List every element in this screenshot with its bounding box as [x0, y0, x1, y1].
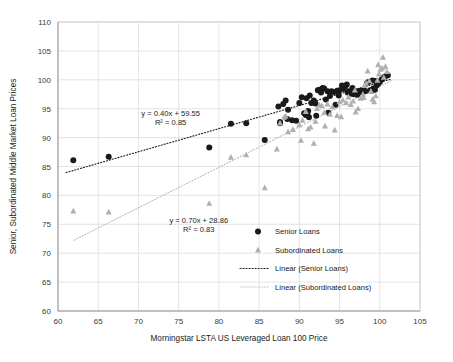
legend-label: Linear (Senior Loans) [275, 264, 348, 273]
data-point-triangle [106, 209, 112, 215]
x-tick-label: 80 [214, 317, 223, 326]
scatter-chart: 6065707580859095100105 60657075808590951… [0, 0, 453, 362]
data-point-circle [344, 81, 350, 87]
legend-item[interactable]: Senior Loans [255, 227, 320, 236]
data-point-circle [262, 137, 268, 143]
annotation-r2: R² = 0.83 [183, 225, 214, 234]
data-point-triangle [332, 127, 338, 133]
y-tick-label: 85 [42, 163, 51, 172]
annotation-r2: R² = 0.85 [155, 118, 186, 127]
x-tick-label: 65 [94, 317, 103, 326]
data-point-circle [313, 113, 319, 119]
x-tick-label: 105 [413, 317, 427, 326]
x-axis-title: Morningstar LSTA US Leveraged Loan 100 P… [151, 334, 328, 343]
legend-marker-triangle-icon [255, 247, 261, 253]
x-tick-label: 90 [295, 317, 304, 326]
data-point-triangle [274, 146, 280, 152]
legend-marker-circle-icon [255, 229, 261, 235]
chart-canvas: 6065707580859095100105 60657075808590951… [0, 0, 453, 362]
series-subordinated-loans [70, 54, 390, 215]
data-point-circle [285, 107, 291, 113]
x-tick-label: 60 [54, 317, 63, 326]
y-tick-label: 60 [42, 307, 51, 316]
data-point-circle [336, 92, 342, 98]
data-point-triangle [355, 105, 361, 111]
data-point-triangle [298, 137, 304, 143]
data-point-triangle [206, 200, 212, 206]
legend-label: Subordinated Loans [275, 246, 343, 255]
y-tick-label: 95 [42, 105, 51, 114]
data-point-triangle [228, 154, 234, 160]
x-tick-label: 85 [255, 317, 264, 326]
data-point-circle [293, 118, 299, 124]
data-point-circle [106, 154, 112, 160]
y-axis-tick-labels: 6065707580859095100105110 [38, 18, 52, 316]
y-tick-label: 80 [42, 191, 51, 200]
x-tick-label: 75 [174, 317, 183, 326]
legend-label: Senior Loans [275, 227, 320, 236]
data-point-triangle [262, 185, 268, 191]
data-point-triangle [312, 118, 318, 124]
data-point-triangle [365, 68, 371, 74]
y-tick-label: 105 [38, 47, 52, 56]
annotation-equation: y = 0.70x + 28.86 [169, 216, 228, 225]
y-tick-label: 65 [42, 278, 51, 287]
data-point-triangle [375, 61, 381, 67]
legend-item[interactable]: Linear (Senior Loans) [240, 264, 348, 273]
data-point-circle [296, 100, 302, 106]
x-tick-label: 70 [134, 317, 143, 326]
y-tick-label: 110 [38, 18, 51, 27]
data-point-circle [206, 144, 212, 150]
y-axis-title: Senior, Subordinated Middle Market Loan … [9, 79, 18, 255]
data-point-circle [306, 114, 312, 120]
x-tick-label: 100 [373, 317, 387, 326]
data-point-triangle [311, 140, 317, 146]
data-point-triangle [380, 54, 386, 60]
x-axis-tick-labels: 6065707580859095100105 [54, 317, 428, 326]
annotation-equation: y = 0.40x + 59.55 [141, 109, 200, 118]
y-tick-label: 70 [42, 249, 51, 258]
data-point-triangle [70, 208, 76, 214]
data-point-triangle [384, 68, 390, 74]
legend-item[interactable]: Linear (Subordinated Loans) [240, 283, 372, 292]
y-tick-label: 75 [42, 220, 51, 229]
data-points [70, 54, 391, 215]
data-point-circle [70, 157, 76, 163]
equation-annotations: y = 0.40x + 59.55R² = 0.85y = 0.70x + 28… [141, 109, 228, 234]
legend-label: Linear (Subordinated Loans) [275, 283, 372, 292]
data-point-circle [243, 120, 249, 126]
y-tick-label: 90 [42, 134, 51, 143]
gridlines [58, 22, 420, 311]
data-point-triangle [322, 123, 328, 129]
data-point-circle [283, 98, 289, 104]
data-point-circle [228, 121, 234, 127]
data-point-circle [304, 95, 310, 101]
x-tick-label: 95 [335, 317, 344, 326]
y-tick-label: 100 [38, 76, 52, 85]
data-point-triangle [382, 63, 388, 69]
